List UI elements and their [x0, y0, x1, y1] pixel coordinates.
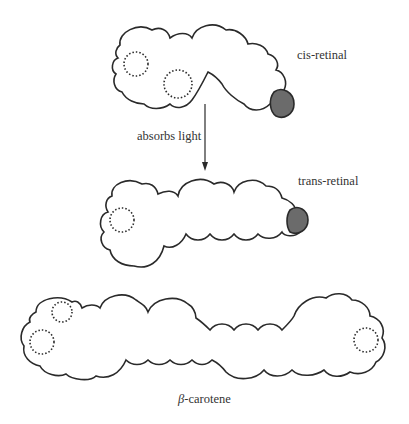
- beta-carotene-model: [21, 294, 385, 380]
- arrow-down-icon: [202, 104, 208, 171]
- diagram-canvas: [0, 0, 409, 424]
- cis-retinal-label: cis-retinal: [297, 48, 347, 63]
- carotene-text: -carotene: [184, 392, 231, 406]
- cis-retinal-model: [112, 25, 294, 117]
- absorbs-light-label: absorbs light: [137, 129, 201, 144]
- beta-carotene-label: β-carotene: [178, 392, 231, 407]
- trans-retinal-label: trans-retinal: [298, 174, 358, 189]
- trans-retinal-model: [101, 180, 308, 267]
